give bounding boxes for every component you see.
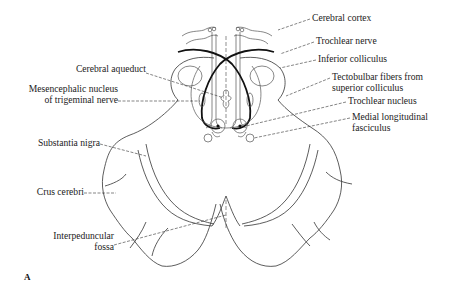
leader-inferior-colliculus — [280, 60, 316, 68]
leader-interpeduncular-fossa — [114, 215, 226, 245]
label-substantia-nigra: Substantia nigra — [20, 138, 100, 149]
leader-cerebral-cortex — [278, 19, 310, 30]
label-inferior-colliculus: Inferior colliculus — [318, 54, 387, 65]
midbrain-outline-left — [102, 57, 216, 266]
mlf-left — [204, 134, 212, 142]
label-cerebral-aqueduct: Cerebral aqueduct — [60, 64, 146, 75]
leader-trochlear-nerve — [280, 42, 314, 54]
mlf-right — [246, 134, 254, 142]
leader-trochlear-nucleus — [246, 102, 346, 126]
label-interpeduncular-fossa: Interpeduncular fossa — [30, 231, 114, 252]
leader-tectobulbar-fibers — [286, 78, 330, 96]
panel-letter: A — [24, 272, 31, 282]
label-crus-cerebri: Crus cerebri — [20, 187, 84, 198]
trochlear-nerve-right — [202, 50, 274, 129]
substantia-nigra-right — [244, 150, 318, 226]
label-tectobulbar-fibers: Tectobulbar fibers from superior collicu… — [332, 72, 423, 93]
label-medial-longitudinal-fasciculus: Medial longitudinal fasciculus — [352, 112, 428, 133]
label-cerebral-cortex: Cerebral cortex — [312, 13, 371, 24]
label-mesencephalic-nucleus: Mesencephalic nucleus of trigeminal nerv… — [8, 84, 118, 105]
label-trochlear-nucleus: Trochlear nucleus — [348, 96, 417, 107]
label-trochlear-nerve: Trochlear nerve — [316, 36, 377, 47]
substantia-nigra-left — [138, 150, 212, 226]
trochlear-nerve-left — [178, 50, 250, 129]
